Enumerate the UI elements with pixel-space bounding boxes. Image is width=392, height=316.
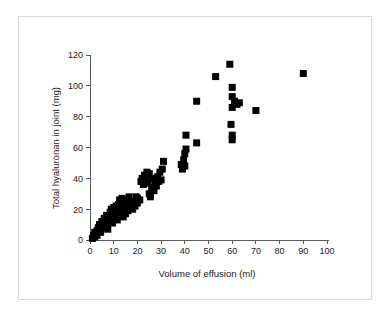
data-point [104,226,111,233]
data-point [229,84,236,91]
x-tick-label: 40 [180,246,190,256]
data-point [147,193,154,200]
y-tick-label: 40 [73,174,83,184]
figure-container: 0102030405060708090100020406080100120 Vo… [0,0,392,316]
data-point [182,132,189,139]
data-point [136,196,143,203]
y-tick-label: 60 [73,143,83,153]
data-point [212,73,219,80]
data-point [159,166,166,173]
data-point [193,98,200,105]
scatter-plot: 0102030405060708090100020406080100120 Vo… [0,0,392,316]
data-point [193,139,200,146]
y-axis-title: Total hyaluronan in joint (mg) [50,87,61,209]
x-axis-title: Volume of effusion (ml) [159,268,256,279]
x-tick-label: 30 [156,246,166,256]
y-tick-label: 80 [73,112,83,122]
data-point [252,107,259,114]
data-point [229,136,236,143]
x-tick-label: 0 [87,246,92,256]
data-point [236,99,243,106]
x-tick-label: 90 [298,246,308,256]
data-point [228,121,235,128]
data-markers-group [89,61,307,242]
y-tick-label: 0 [78,235,83,245]
data-point [158,176,165,183]
x-tick-label: 60 [227,246,237,256]
data-point [181,163,188,170]
data-point [226,61,233,68]
y-tick-label: 100 [68,81,83,91]
x-tick-label: 80 [275,246,285,256]
x-tick-label: 20 [132,246,142,256]
data-point [180,156,187,163]
data-point [300,70,307,77]
y-tick-label: 120 [68,50,83,60]
x-tick-label: 100 [319,246,334,256]
x-tick-label: 10 [109,246,119,256]
data-point [160,158,167,165]
data-point [182,146,189,153]
x-tick-label: 70 [251,246,261,256]
x-tick-label: 50 [203,246,213,256]
y-tick-label: 20 [73,205,83,215]
